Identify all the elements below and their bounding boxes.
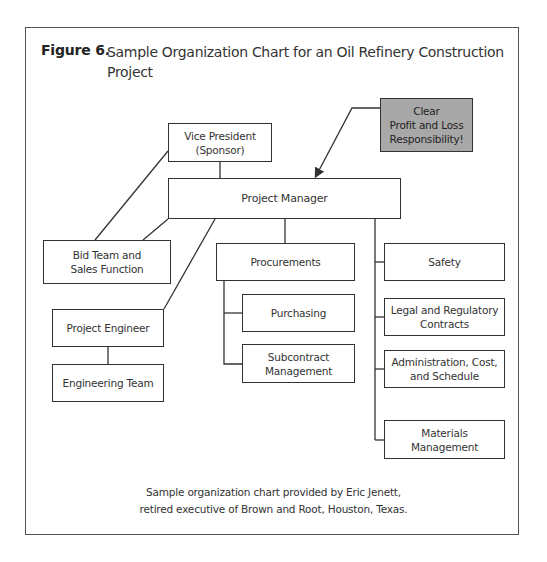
node-subcontract-management: Subcontract Management: [242, 344, 355, 383]
node-materials-management: Materials Management: [384, 420, 505, 459]
node-purchasing: Purchasing: [242, 294, 355, 332]
node-project-manager: Project Manager: [168, 178, 401, 219]
node-bid-team: Bid Team and Sales Function: [43, 240, 171, 284]
figure-caption: Sample organization chart provided by Er…: [0, 484, 547, 518]
node-engineering-team: Engineering Team: [52, 364, 164, 402]
node-safety: Safety: [384, 243, 505, 281]
callout-arrow: [316, 108, 380, 176]
node-administration: Administration, Cost, and Schedule: [384, 350, 505, 388]
caption-line-2: retired executive of Brown and Root, Hou…: [0, 501, 547, 518]
callout-box: Clear Profit and Loss Responsibility!: [380, 98, 473, 152]
node-project-engineer: Project Engineer: [52, 309, 164, 347]
node-legal-regulatory: Legal and Regulatory Contracts: [384, 298, 505, 336]
node-procurements: Procurements: [216, 243, 355, 281]
caption-line-1: Sample organization chart provided by Er…: [0, 484, 547, 501]
node-vice-president: Vice President (Sponsor): [168, 123, 272, 162]
